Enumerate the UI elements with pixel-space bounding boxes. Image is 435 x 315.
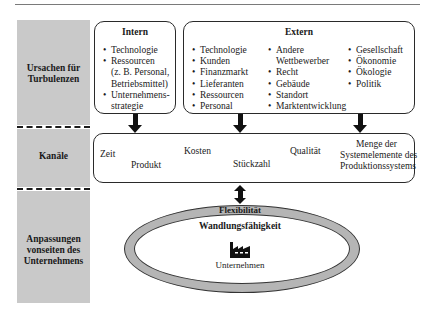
extern-title: Extern [184, 27, 414, 37]
list-item: Andere [268, 45, 346, 56]
list-item: Personal [192, 101, 248, 112]
list-item: Kunden [192, 56, 248, 67]
factory-icon [230, 242, 250, 258]
channel-menge: Menge der Systemelemente des Produktions… [340, 139, 413, 172]
channel-menge-line: Menge der [340, 139, 413, 150]
transformability-label: Wandlungsfähigkeit [180, 221, 300, 231]
intern-box: Intern Technologie Ressourcen (z. B. Per… [94, 21, 176, 114]
list-item: Lieferanten [192, 79, 248, 90]
list-item: Technologie [103, 45, 170, 56]
top-rule [15, 4, 420, 5]
list-item: Ökologie [348, 67, 403, 78]
row-separator-2 [17, 188, 90, 190]
list-item: Ressourcen [103, 56, 170, 67]
list-item: Technologie [192, 45, 248, 56]
list-item: Gesellschaft [348, 45, 403, 56]
list-item: Ökonomie [348, 56, 403, 67]
row-label-line: Anpassungen [17, 234, 90, 245]
extern-list-col1: Technologie Kunden Finanzmarkt Lieferant… [192, 45, 248, 112]
list-item: Finanzmarkt [192, 67, 248, 78]
row-label-adaptations: Anpassungen vonseiten des Unternehmens [17, 234, 90, 267]
list-item: Politik [348, 79, 403, 90]
list-item: Recht [268, 67, 346, 78]
row-label-line: Kanäle [17, 151, 90, 162]
flexibility-label: Flexibilität [200, 205, 280, 215]
row-label-line: Ursachen für [17, 63, 90, 74]
row-label-line: Turbulenzen [17, 74, 90, 85]
row-label-line: vonseiten des [17, 245, 90, 256]
channel-menge-line: Produktionssystems [340, 161, 413, 172]
channel-kosten: Kosten [184, 146, 211, 157]
row-separator-1 [17, 126, 90, 128]
extern-box: Extern Technologie Kunden Finanzmarkt Li… [183, 21, 415, 114]
list-item: Gebäude [268, 79, 346, 90]
intern-list: Technologie Ressourcen (z. B. Personal, … [103, 45, 170, 112]
list-item: Marktentwicklung [268, 101, 346, 112]
row-label-causes: Ursachen für Turbulenzen [17, 63, 90, 85]
list-item: Wettbewerber [268, 56, 346, 67]
list-item: Ressourcen [192, 90, 248, 101]
list-item: (z. B. Personal, [103, 67, 170, 78]
list-item: Standort [268, 90, 346, 101]
channel-stueckzahl: Stückzahl [233, 159, 270, 170]
channel-produkt: Produkt [131, 160, 161, 171]
channel-qualitaet: Qualität [290, 146, 321, 157]
row-label-channels: Kanäle [17, 151, 90, 162]
intern-title: Intern [95, 27, 175, 37]
extern-list-col2: Andere Wettbewerber Recht Gebäude Stando… [268, 45, 346, 112]
channel-menge-line: Systemelemente des [340, 150, 413, 161]
list-item: Betriebsmittel) [103, 79, 170, 90]
list-item: Unternehmens- [103, 90, 170, 101]
row-label-line: Unternehmens [17, 256, 90, 267]
extern-list-col3: Gesellschaft Ökonomie Ökologie Politik [348, 45, 403, 90]
list-item: strategie [103, 101, 170, 112]
company-label: Unternehmen [200, 260, 280, 271]
channel-zeit: Zeit [100, 149, 115, 160]
